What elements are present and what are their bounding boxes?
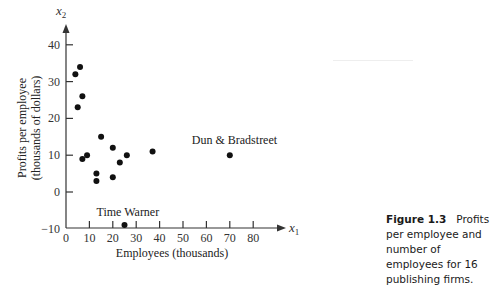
point-annotation: Dun & Bradstreet xyxy=(192,133,278,147)
data-point xyxy=(124,152,130,158)
data-point xyxy=(227,152,233,158)
y-tick-label: 10 xyxy=(48,148,60,162)
x-tick-label: 70 xyxy=(224,231,236,245)
x-tick-label: 20 xyxy=(107,231,119,245)
x-tick-label: 10 xyxy=(83,231,95,245)
y-tick-label: 20 xyxy=(48,111,60,125)
data-point xyxy=(98,134,104,140)
y-axis-symbol: x2 xyxy=(55,3,66,20)
figure-caption: Figure 1.3 Profits per employee and numb… xyxy=(386,212,498,287)
data-point xyxy=(110,145,116,151)
x-axis-symbol: x1 xyxy=(288,220,299,237)
data-point xyxy=(84,152,90,158)
x-tick-label: 80 xyxy=(247,231,259,245)
x-tick-label: 40 xyxy=(154,231,166,245)
data-point xyxy=(117,160,123,166)
point-annotation: Time Warner xyxy=(97,205,160,219)
x-axis-label: Employees (thousands) xyxy=(116,246,228,260)
faint-artifact-line xyxy=(333,60,413,61)
y-axis-label: Profits per employee (thousands of dolla… xyxy=(15,76,43,181)
x-ticks: 01020304050607080 xyxy=(63,221,259,245)
data-point xyxy=(72,71,78,77)
y-ticks: −10010203040 xyxy=(41,38,73,236)
data-point xyxy=(122,222,128,228)
x-axis-arrow-icon xyxy=(277,225,286,232)
data-point xyxy=(150,149,156,155)
data-point xyxy=(79,156,85,162)
data-point xyxy=(75,104,81,110)
data-point xyxy=(93,178,99,184)
y-tick-label: 0 xyxy=(54,185,60,199)
y-tick-label: 30 xyxy=(48,75,60,89)
axes xyxy=(66,30,280,228)
svg-text:(thousands of dollars): (thousands of dollars) xyxy=(29,76,43,181)
y-tick-label: 40 xyxy=(48,38,60,52)
y-axis-arrow-icon xyxy=(63,24,70,33)
x-tick-label: 30 xyxy=(130,231,142,245)
svg-text:Profits per employee: Profits per employee xyxy=(15,78,29,178)
data-point xyxy=(93,171,99,177)
y-tick-label: −10 xyxy=(41,222,60,236)
x-tick-label: 0 xyxy=(63,231,69,245)
caption-label: Figure 1.3 xyxy=(386,213,446,225)
data-point xyxy=(110,174,116,180)
data-point xyxy=(79,93,85,99)
data-point xyxy=(77,64,83,70)
annotations: Dun & BradstreetTime Warner xyxy=(97,133,278,219)
x-tick-label: 50 xyxy=(177,231,189,245)
x-tick-label: 60 xyxy=(200,231,212,245)
